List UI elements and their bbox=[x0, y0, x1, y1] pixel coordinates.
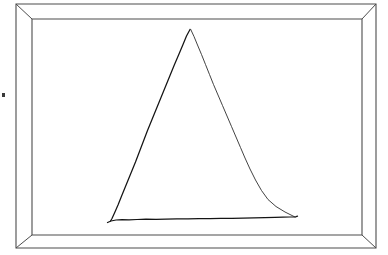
frame-interior-fill bbox=[32, 19, 362, 235]
drawing-surface bbox=[0, 0, 388, 255]
dust-speck bbox=[2, 93, 5, 97]
scene-root: Hand-drawn triangle inside a picture fra… bbox=[0, 0, 388, 255]
